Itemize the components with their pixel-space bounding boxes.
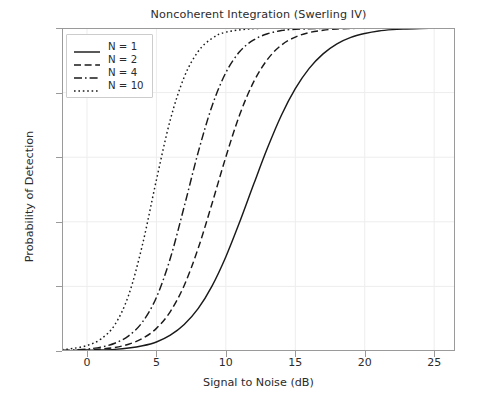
x-tick-label: 0 bbox=[83, 356, 90, 369]
y-tick-mark bbox=[56, 351, 62, 352]
legend-line-swatch bbox=[73, 55, 101, 65]
legend-label: N = 1 bbox=[108, 41, 137, 52]
y-tick-mark bbox=[56, 286, 62, 287]
legend: N = 1N = 2N = 4N = 10 bbox=[66, 34, 153, 98]
legend-line-swatch bbox=[73, 68, 101, 78]
x-axis-label: Signal to Noise (dB) bbox=[62, 376, 455, 389]
x-tick-label: 5 bbox=[153, 356, 160, 369]
chart-figure: Noncoherent Integration (Swerling IV) Pr… bbox=[0, 0, 479, 402]
legend-label: N = 2 bbox=[108, 54, 137, 65]
legend-item: N = 1 bbox=[73, 40, 144, 53]
x-tick-label: 25 bbox=[427, 356, 441, 369]
y-tick-mark bbox=[56, 28, 62, 29]
x-tick-label: 10 bbox=[219, 356, 233, 369]
x-tick-label: 15 bbox=[288, 356, 302, 369]
x-tick-label: 20 bbox=[358, 356, 372, 369]
y-tick-mark bbox=[56, 93, 62, 94]
chart-title: Noncoherent Integration (Swerling IV) bbox=[62, 8, 455, 21]
legend-item: N = 4 bbox=[73, 66, 144, 79]
legend-item: N = 10 bbox=[73, 79, 144, 92]
legend-label: N = 4 bbox=[108, 67, 137, 78]
legend-line-swatch bbox=[73, 42, 101, 52]
legend-label: N = 10 bbox=[108, 80, 144, 91]
legend-item: N = 2 bbox=[73, 53, 144, 66]
legend-line-swatch bbox=[73, 81, 101, 91]
y-axis-label: Probability of Detection bbox=[23, 97, 36, 297]
y-tick-mark bbox=[56, 222, 62, 223]
y-tick-mark bbox=[56, 157, 62, 158]
